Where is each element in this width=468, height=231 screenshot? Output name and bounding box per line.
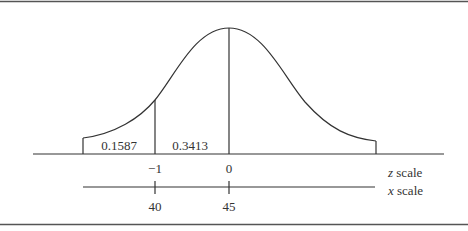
x-tick-label-45: 45 (223, 199, 236, 214)
z-scale-word: scale (393, 165, 422, 180)
normal-curve-figure: 0.1587 0.3413 −1 0 40 45 z scale x scale (0, 0, 468, 231)
z-tick-label-zero: 0 (226, 161, 233, 176)
area-label-middle: 0.3413 (172, 138, 208, 153)
x-scale-label: x scale (387, 183, 423, 198)
area-label-left-tail: 0.1587 (101, 138, 137, 153)
z-scale-label: z scale (387, 165, 423, 180)
x-scale-word: scale (394, 183, 423, 198)
x-tick-label-40: 40 (149, 199, 162, 214)
z-tick-label-minus-one: −1 (148, 161, 162, 176)
